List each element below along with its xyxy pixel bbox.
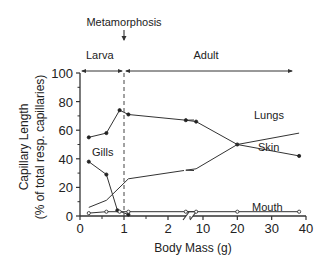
y-tick-label: 60 [59,123,73,138]
arrow-head-icon [81,69,86,73]
x-tick-label: 1 [120,221,127,236]
y-tick-label: 100 [51,66,73,81]
data-point-mouth [195,210,198,213]
y-tick-label: 20 [59,180,73,195]
y-axis-label-line1: Capillary Length [17,104,31,191]
data-point-mouth [105,210,108,213]
series-line-lungs [89,171,184,208]
adult-label: Adult [193,49,218,61]
data-point-gills [87,160,90,163]
arrow-head-icon [288,69,293,73]
y-tick-label: 40 [59,152,73,167]
series-label-lungs: Lungs [254,109,284,121]
capillary-length-chart: 02040608010001210203040 Capillary Length… [0,0,323,272]
x-tick-label: 2 [164,221,171,236]
series-label-skin: Skin [258,141,279,153]
x-tick-label: 30 [264,221,278,236]
x-tick-label: 40 [299,221,313,236]
arrow-head-icon [118,69,123,73]
data-point-skin [298,154,301,157]
metamorphosis-label: Metamorphosis [86,16,162,28]
data-point-skin [87,136,90,139]
y-axis-label-line2: (% of total resp. capillaries) [33,75,47,220]
data-point-skin [105,131,108,134]
larva-label: Larva [86,49,114,61]
data-point-gills [105,173,108,176]
series-line-lungs [186,133,299,170]
series-line-mouth [89,212,184,213]
series-label-gills: Gills [92,146,114,158]
data-point-mouth [236,210,239,213]
x-tick-label: 20 [230,221,244,236]
arrow-head-icon [125,69,130,73]
data-point-mouth [298,210,301,213]
data-point-skin [127,113,130,116]
y-tick-label: 80 [59,95,73,110]
data-point-mouth [127,210,130,213]
data-point-skin [184,119,187,122]
data-point-mouth [184,210,187,213]
x-tick-label: 10 [196,221,210,236]
x-tick-label: 0 [76,221,83,236]
series-label-mouth: Mouth [252,201,283,213]
y-tick-label: 0 [66,209,73,224]
series-line-skin [89,110,184,137]
series-line-skin [186,120,299,156]
data-point-skin [118,109,121,112]
arrow-head-icon [122,36,127,41]
data-point-mouth [87,212,90,215]
data-point-mouth [118,210,121,213]
x-axis-label: Body Mass (g) [154,241,231,255]
series-line-gills [89,162,129,215]
data-point-skin [195,120,198,123]
